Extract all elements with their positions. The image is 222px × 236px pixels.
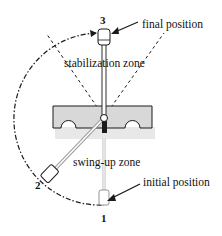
- stabilization-boundary-left: [46, 33, 104, 117]
- pendulum-mass-initial: [99, 190, 109, 205]
- initial-position-arrow: [112, 184, 140, 198]
- pivot-mount: [102, 121, 107, 133]
- pendulum-diagram: 3 final position stabilization zone swin…: [0, 0, 222, 236]
- stabilization-boundary-right: [104, 33, 164, 117]
- position-3-label: 3: [100, 15, 106, 26]
- diagram-graphics: [0, 0, 222, 236]
- pendulum-rod-upright: [102, 44, 106, 116]
- swing-up-zone-label: swing-up zone: [73, 157, 140, 169]
- position-2-label: 2: [35, 180, 41, 191]
- final-position-label: final position: [142, 19, 203, 31]
- arc-arrowhead: [90, 30, 97, 37]
- pivot-joint: [101, 115, 108, 122]
- position-1-label: 1: [101, 213, 107, 224]
- pendulum-mass-final: [98, 29, 110, 45]
- initial-position-label: initial position: [143, 177, 210, 189]
- stabilization-zone-label: stabilization zone: [64, 58, 145, 70]
